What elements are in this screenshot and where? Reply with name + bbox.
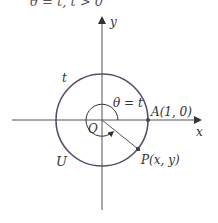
point-p-label: P(x, y) xyxy=(140,153,180,167)
arc-label: t xyxy=(62,71,67,85)
circle-label: U xyxy=(56,154,68,169)
x-axis-label: x xyxy=(196,125,203,139)
y-axis-label: y xyxy=(109,15,117,29)
point-a xyxy=(146,118,150,122)
point-a-label: A(1, 0) xyxy=(150,105,192,119)
angle-label: θ = t xyxy=(113,96,143,110)
radius-op xyxy=(102,120,138,149)
unit-circle-diagram: y x t θ = t A(1, 0) O U P(x, y) xyxy=(0,0,218,223)
point-p xyxy=(136,147,140,151)
origin-label: O xyxy=(88,122,98,136)
